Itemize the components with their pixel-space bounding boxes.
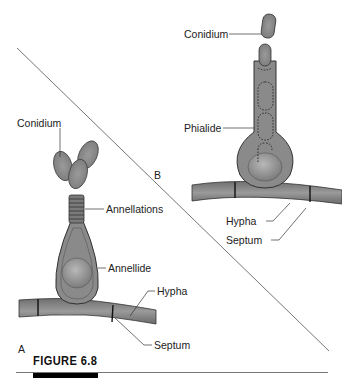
- septum-a-2: [112, 305, 113, 322]
- released-conidium-b: [260, 13, 276, 39]
- caption-bar: [33, 373, 98, 378]
- figure-caption: FIGURE 6.8: [33, 353, 97, 368]
- annellide-nucleus: [62, 258, 92, 288]
- label-b-hypha: Hypha: [226, 216, 256, 227]
- fungal-conidiogenesis-illustration: [0, 0, 342, 386]
- panel-a-letter: A: [18, 344, 25, 355]
- panel-a-illustration: [19, 128, 156, 345]
- label-annellide: Annellide: [108, 263, 151, 274]
- leader-septum-b: [271, 208, 306, 240]
- label-a-septum: Septum: [154, 340, 190, 351]
- label-b-septum: Septum: [226, 235, 262, 246]
- panel-b-letter: B: [154, 170, 161, 181]
- label-phialide: Phialide: [184, 123, 221, 134]
- emerging-conidium: [259, 44, 271, 66]
- figure-canvas: Conidium Phialide Hypha Septum B Conidiu…: [0, 0, 342, 386]
- label-annellations: Annellations: [106, 204, 163, 215]
- leader-hypha-b: [266, 203, 290, 221]
- label-b-conidium: Conidium: [184, 29, 228, 40]
- phialide-nucleus: [248, 153, 282, 181]
- label-a-conidium: Conidium: [17, 118, 61, 129]
- label-a-hypha: Hypha: [157, 286, 187, 297]
